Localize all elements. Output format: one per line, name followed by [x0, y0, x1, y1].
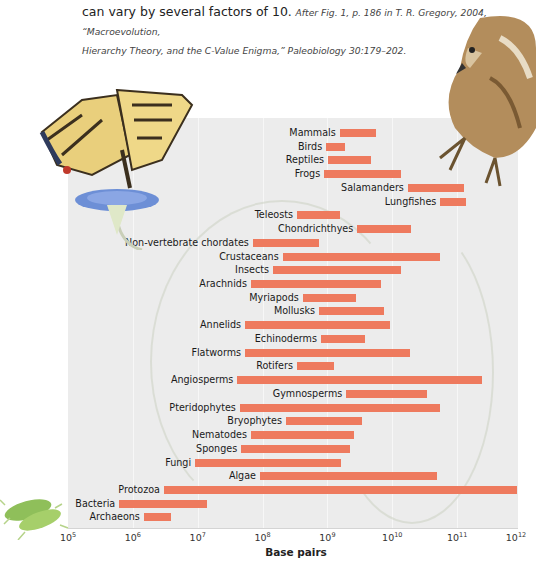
category-label: Nematodes	[192, 429, 251, 441]
range-bar	[440, 198, 466, 206]
range-bar	[340, 129, 376, 137]
category-label: Flatworms	[191, 347, 245, 359]
range-bar	[237, 376, 482, 384]
category-label: Gymnosperms	[273, 388, 347, 400]
category-label: Algae	[229, 470, 260, 482]
category-label: Angiosperms	[171, 374, 237, 386]
range-bar	[346, 390, 426, 398]
range-bar	[260, 472, 437, 480]
category-label: Frogs	[295, 168, 325, 180]
range-bar	[297, 211, 340, 219]
category-label: Arachnids	[199, 278, 251, 290]
category-label: Chondrichthyes	[278, 223, 357, 235]
category-label: Crustaceans	[219, 251, 283, 263]
category-label: Protozoa	[118, 484, 164, 496]
range-bar	[253, 239, 319, 247]
range-bar	[324, 170, 401, 178]
range-bar	[283, 253, 441, 261]
x-tick-label: 108	[254, 531, 270, 543]
range-bar	[319, 307, 384, 315]
category-label: Mammals	[289, 127, 339, 139]
category-label: Rotifers	[256, 360, 297, 372]
category-label: Birds	[298, 141, 326, 153]
x-tick-label: 109	[319, 531, 335, 543]
category-label: Mollusks	[274, 305, 319, 317]
range-bar	[326, 143, 345, 151]
category-label: Insects	[235, 264, 273, 276]
range-bar	[241, 445, 350, 453]
category-label: Lungfishes	[385, 196, 440, 208]
category-label: Salamanders	[341, 182, 408, 194]
x-tick-label: 107	[190, 531, 206, 543]
category-label: Sponges	[196, 443, 241, 455]
x-tick-label: 1010	[382, 531, 402, 543]
range-bar	[303, 294, 356, 302]
category-label: Annelids	[200, 319, 245, 331]
range-bar	[251, 280, 381, 288]
category-label: Pteridophytes	[169, 402, 240, 414]
range-bar	[195, 459, 341, 467]
x-tick-label: 105	[60, 531, 76, 543]
range-bar	[240, 404, 440, 412]
category-label: Echinoderms	[255, 333, 321, 345]
x-tick-label: 1012	[506, 531, 526, 543]
range-bar	[251, 431, 354, 439]
category-label: Myriapods	[249, 292, 303, 304]
range-bar	[286, 417, 362, 425]
category-label: Fungi	[165, 457, 195, 469]
range-bar	[328, 156, 371, 164]
range-bar	[321, 335, 365, 343]
range-bar	[245, 321, 390, 329]
category-label: Teleosts	[255, 209, 297, 221]
range-bar	[144, 513, 171, 521]
range-bar	[119, 500, 207, 508]
x-axis-line	[68, 528, 518, 529]
hawk-icon	[410, 8, 536, 193]
category-label: Bacteria	[75, 498, 119, 510]
x-tick-label: 1011	[447, 531, 467, 543]
butterfly-on-flower-icon	[22, 60, 202, 250]
range-bar	[297, 362, 334, 370]
x-tick-label: 106	[125, 531, 141, 543]
range-bar	[273, 266, 401, 274]
range-bar	[245, 349, 410, 357]
category-label: Bryophytes	[227, 415, 286, 427]
range-bar	[164, 486, 517, 494]
x-axis-label: Base pairs	[265, 546, 327, 558]
category-label: Archaeons	[89, 511, 143, 523]
caption-lead: can vary by several factors of 10.	[82, 4, 292, 19]
category-label: Reptiles	[286, 154, 328, 166]
range-bar	[357, 225, 411, 233]
